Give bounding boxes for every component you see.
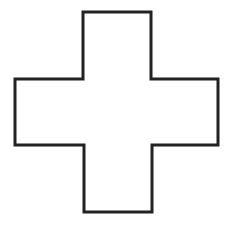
- cross-diagram: [0, 0, 228, 231]
- cross-shape: [15, 12, 218, 212]
- diagram-canvas: [0, 0, 228, 231]
